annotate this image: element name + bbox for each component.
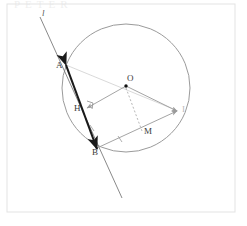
vector-O-I	[126, 86, 177, 111]
point-dot-O	[124, 84, 127, 87]
label-point-O: O	[127, 74, 134, 83]
label-point-I: I	[182, 105, 185, 114]
label-point-H: H	[74, 104, 81, 113]
figure-frame	[7, 4, 235, 212]
figure-canvas: PETER l A H B O M I	[0, 0, 247, 226]
label-point-A: A	[56, 61, 63, 70]
vector-B-I	[97, 111, 177, 148]
geometry-figure	[0, 0, 247, 226]
label-line-l: l	[42, 9, 45, 18]
point-dots-group	[124, 84, 127, 87]
tick-marks-group	[90, 125, 122, 142]
label-point-B: B	[92, 148, 98, 157]
dashed-O-M	[126, 88, 142, 131]
label-point-M: M	[144, 127, 152, 136]
